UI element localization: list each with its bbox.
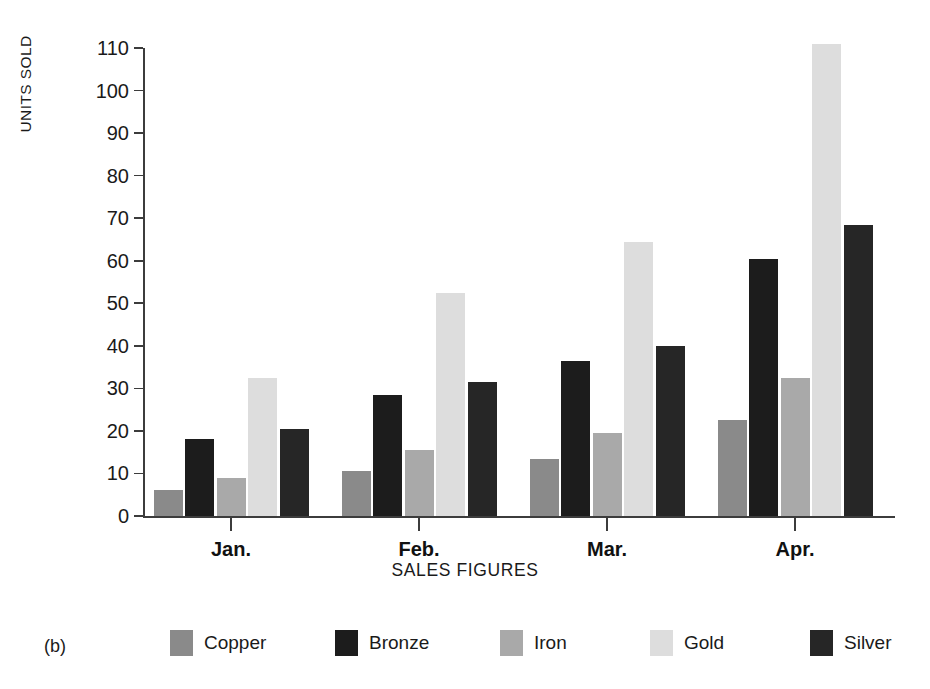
y-axis-tick-label: 40 (69, 334, 129, 357)
y-axis-tick (134, 217, 143, 219)
bar-gold-jan (248, 378, 277, 516)
legend-item-copper[interactable]: Copper (170, 630, 266, 656)
y-axis-tick-label: 70 (69, 207, 129, 230)
y-axis-tick-label: 60 (69, 249, 129, 272)
y-axis-tick-label: 10 (69, 462, 129, 485)
bar-bronze-apr (749, 259, 778, 516)
bar-bronze-feb (373, 395, 402, 516)
y-axis-tick (134, 345, 143, 347)
plot-area: 0102030405060708090100110 Jan.Feb.Mar.Ap… (143, 48, 895, 518)
legend-label: Copper (204, 632, 266, 654)
y-axis-tick-label: 20 (69, 419, 129, 442)
y-axis-tick (134, 47, 143, 49)
y-axis-tick (134, 473, 143, 475)
y-axis-tick-label: 110 (69, 37, 129, 60)
y-axis-tick (134, 515, 143, 517)
y-axis-tick-label: 50 (69, 292, 129, 315)
bar-gold-feb (436, 293, 465, 516)
y-axis-tick-label: 80 (69, 164, 129, 187)
x-axis-tick (418, 518, 420, 531)
legend-swatch-gold-icon (650, 630, 673, 656)
legend-label: Silver (844, 632, 892, 654)
bar-silver-apr (844, 225, 873, 516)
bar-bronze-mar (561, 361, 590, 516)
y-axis-tick-label: 90 (69, 122, 129, 145)
legend-swatch-copper-icon (170, 630, 193, 656)
bars-layer (143, 48, 895, 516)
x-axis-title: SALES FIGURES (0, 560, 930, 581)
x-axis-label-mar: Mar. (587, 538, 627, 561)
legend-item-iron[interactable]: Iron (500, 630, 567, 656)
y-axis-tick (134, 260, 143, 262)
legend-swatch-iron-icon (500, 630, 523, 656)
y-axis-tick (134, 132, 143, 134)
bar-iron-feb (405, 450, 434, 516)
bar-copper-feb (342, 471, 371, 516)
bar-gold-apr (812, 44, 841, 516)
legend-label: Iron (534, 632, 567, 654)
bar-iron-apr (781, 378, 810, 516)
y-axis-tick (134, 90, 143, 92)
legend-item-silver[interactable]: Silver (810, 630, 892, 656)
y-axis-tick-label: 30 (69, 377, 129, 400)
y-axis-tick (134, 175, 143, 177)
bar-iron-jan (217, 478, 246, 516)
y-axis-tick (134, 430, 143, 432)
bar-gold-mar (624, 242, 653, 516)
x-axis-tick (794, 518, 796, 531)
chart-legend: CopperBronzeIronGoldSilver (170, 630, 910, 664)
legend-swatch-silver-icon (810, 630, 833, 656)
bar-copper-mar (530, 459, 559, 516)
bar-bronze-jan (185, 439, 214, 516)
bar-silver-feb (468, 382, 497, 516)
legend-item-gold[interactable]: Gold (650, 630, 724, 656)
y-axis-title: UNITS SOLD (14, 0, 38, 199)
legend-label: Gold (684, 632, 724, 654)
bar-copper-apr (718, 420, 747, 516)
x-axis-line (143, 516, 895, 518)
panel-label: (b) (44, 636, 66, 657)
legend-item-bronze[interactable]: Bronze (335, 630, 429, 656)
figure-panel-b: UNITS SOLD 0102030405060708090100110 Jan… (0, 0, 930, 689)
x-axis-tick (606, 518, 608, 531)
x-axis-label-apr: Apr. (776, 538, 815, 561)
legend-swatch-bronze-icon (335, 630, 358, 656)
bar-iron-mar (593, 433, 622, 516)
x-axis-label-jan: Jan. (211, 538, 251, 561)
bar-silver-jan (280, 429, 309, 516)
bar-copper-jan (154, 490, 183, 516)
legend-label: Bronze (369, 632, 429, 654)
y-axis-tick-label: 100 (69, 79, 129, 102)
bar-silver-mar (656, 346, 685, 516)
y-axis-tick-label: 0 (69, 505, 129, 528)
x-axis-label-feb: Feb. (398, 538, 439, 561)
y-axis-tick (134, 302, 143, 304)
x-axis-tick (230, 518, 232, 531)
y-axis-tick (134, 388, 143, 390)
